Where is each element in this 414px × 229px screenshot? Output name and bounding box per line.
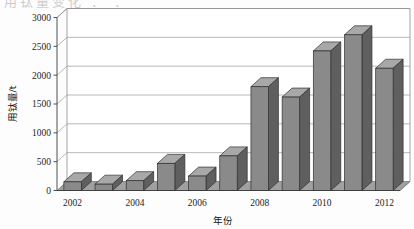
- x-tick-label-2010: 2010: [313, 198, 332, 208]
- bar-front-2009: [282, 97, 299, 190]
- bar-front-2010: [313, 51, 330, 191]
- bar-side-2012: [393, 59, 403, 190]
- bar-side-2008: [268, 78, 278, 191]
- gridline-depth-2000: [57, 66, 67, 75]
- y-axis-title: 用钛量/t: [7, 85, 18, 122]
- chart-svg: 050010001500200025003000 200220042006200…: [0, 0, 414, 229]
- titanium-consumption-bar-chart: 050010001500200025003000 200220042006200…: [0, 0, 414, 229]
- bar-front-2012: [376, 68, 393, 190]
- bar-2009: [282, 88, 309, 190]
- y-tick-label-2000: 2000: [32, 71, 51, 81]
- gridline-depth-1000: [57, 124, 67, 133]
- bar-front-2011: [344, 35, 361, 191]
- y-tick-label-1500: 1500: [32, 99, 51, 109]
- bar-side-2011: [362, 26, 372, 191]
- y-tick-label-3000: 3000: [32, 13, 51, 23]
- bar-front-2005: [157, 163, 174, 190]
- bar-front-2004: [126, 181, 143, 191]
- bar-2011: [344, 26, 371, 191]
- bar-2008: [251, 78, 278, 191]
- frame-topleft-depth: [57, 9, 67, 18]
- y-tick-label-500: 500: [37, 157, 52, 167]
- bar-side-2010: [331, 42, 341, 191]
- y-tick-label-0: 0: [46, 186, 51, 196]
- bar-2007: [220, 147, 247, 191]
- x-tick-label-2002: 2002: [63, 198, 82, 208]
- bar-2012: [376, 59, 403, 190]
- x-tick-label-2012: 2012: [375, 198, 394, 208]
- y-tick-labels: 050010001500200025003000: [32, 13, 51, 196]
- bar-front-2003: [95, 184, 112, 190]
- x-axis-title: 年份: [213, 215, 233, 226]
- bar-front-2006: [189, 176, 206, 190]
- bar-side-2009: [300, 88, 310, 190]
- x-tick-label-2008: 2008: [250, 198, 269, 208]
- x-tick-label-2006: 2006: [188, 198, 207, 208]
- y-tick-label-1000: 1000: [32, 128, 51, 138]
- bar-2005: [157, 154, 184, 190]
- gridline-depth-500: [57, 153, 67, 162]
- gridline-depth-1500: [57, 95, 67, 104]
- x-tick-label-2004: 2004: [125, 198, 144, 208]
- x-tick-labels: 200220042006200820102012: [63, 198, 394, 208]
- bar-front-2008: [251, 87, 268, 191]
- bar-front-2007: [220, 156, 237, 191]
- gridline-depth-2500: [57, 37, 67, 46]
- bar-front-2002: [64, 182, 81, 191]
- bar-2010: [313, 42, 340, 191]
- y-tick-label-2500: 2500: [32, 42, 51, 52]
